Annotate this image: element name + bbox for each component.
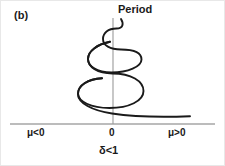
- panel-label: (b): [14, 9, 28, 21]
- bifurcation-figure-panel-b: (b) Period μ<0 0 μ>0 δ<1: [0, 0, 225, 166]
- vertical-axis-title: Period: [118, 3, 152, 15]
- x-axis-label-negative: μ<0: [27, 127, 45, 138]
- x-axis-label-positive: μ>0: [168, 127, 186, 138]
- plot-canvas: [0, 0, 225, 166]
- bifurcation-curve-tail: [78, 78, 190, 116]
- bifurcation-curve: [88, 19, 142, 73]
- x-axis-label-origin: 0: [109, 127, 115, 138]
- condition-label: δ<1: [99, 144, 118, 156]
